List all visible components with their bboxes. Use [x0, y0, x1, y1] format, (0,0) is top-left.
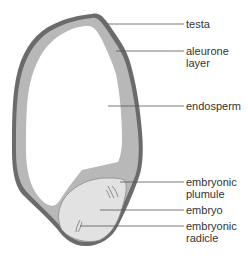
label-testa: testa: [186, 18, 210, 30]
label-embryonic-radicle: embryonic radicle: [186, 220, 237, 244]
label-embryonic-plumule: embryonic plumule: [186, 176, 237, 200]
label-aleurone-layer: aleurone layer: [186, 45, 229, 69]
seed-diagram: testa aleurone layer endosperm embryonic…: [0, 0, 248, 256]
label-embryo: embryo: [186, 204, 223, 216]
label-endosperm: endosperm: [186, 100, 241, 112]
seed-illustration: [0, 0, 248, 256]
